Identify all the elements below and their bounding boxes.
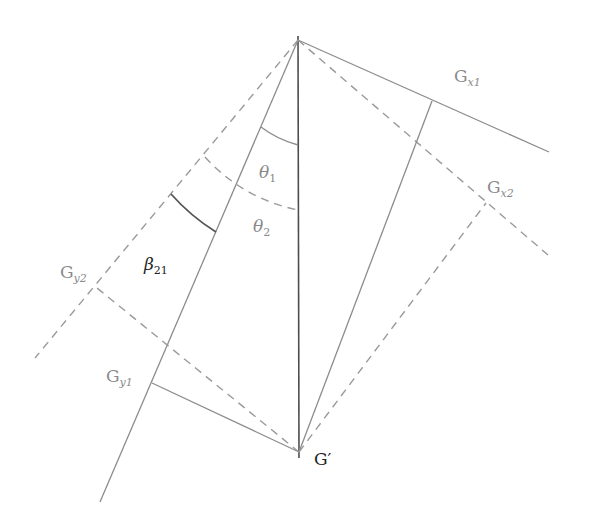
x1-axis-line [298, 40, 549, 152]
y2-axis-line [35, 40, 298, 358]
label-gy2: Gy2 [60, 262, 87, 285]
label-theta2: θ2 [253, 216, 270, 239]
label-g-prime: G′ [314, 449, 332, 469]
label-beta21: β21 [143, 254, 168, 277]
projection-gy2 [97, 288, 299, 452]
projection-gy1 [152, 383, 299, 452]
x2-axis-line [298, 40, 548, 255]
projection-gx1 [299, 101, 432, 452]
label-gx2: Gx2 [487, 177, 514, 200]
projection-diagram: Gx1 Gx2 Gy2 Gy1 θ1 θ2 β21 G′ [0, 0, 589, 520]
beta21-arc [171, 194, 216, 232]
label-theta1: θ1 [259, 162, 276, 185]
label-gx1: Gx1 [454, 66, 481, 89]
theta1-arc [261, 127, 298, 145]
theta2-arc [205, 157, 298, 210]
y1-axis-line [100, 40, 298, 502]
vertical-axis-line [298, 36, 299, 458]
projection-gx2 [299, 203, 486, 452]
label-gy1: Gy1 [106, 366, 133, 389]
